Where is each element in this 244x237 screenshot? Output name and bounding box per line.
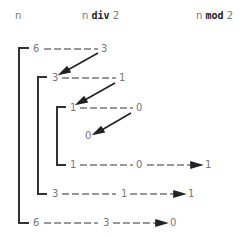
header-div-2: 2	[113, 10, 119, 21]
header-mod-n: n	[196, 10, 202, 21]
r4-n: 1	[70, 160, 76, 170]
r4-div: 0	[136, 160, 142, 170]
r1-div: 3	[101, 44, 107, 54]
r6-mod: 0	[170, 218, 176, 228]
r5-div: 1	[121, 189, 127, 199]
r6-n: 6	[33, 218, 39, 228]
r5-n: 3	[52, 189, 58, 199]
base-n: 0	[85, 131, 91, 141]
header-div: n div 2	[82, 11, 119, 21]
r1-n: 6	[33, 44, 39, 54]
header-mod-op: mod	[206, 10, 224, 21]
header-mod-2: 2	[227, 10, 233, 21]
header-div-n: n	[82, 10, 88, 21]
header-mod: n mod 2	[196, 11, 233, 21]
r2-n: 3	[52, 73, 58, 83]
header-n: n	[15, 11, 21, 21]
r6-div: 3	[103, 218, 109, 228]
bracket-inner	[57, 107, 66, 165]
bracket-outer	[19, 48, 29, 223]
diagram-lines	[0, 0, 244, 237]
bracket-middle	[38, 77, 47, 194]
r3-n: 1	[70, 103, 76, 113]
r4-mod: 1	[205, 160, 211, 170]
r3-div: 0	[136, 103, 142, 113]
header-div-op: div	[92, 10, 110, 21]
r2-div: 1	[119, 73, 125, 83]
r5-mod: 1	[188, 189, 194, 199]
